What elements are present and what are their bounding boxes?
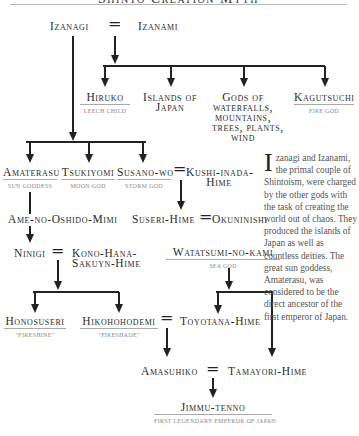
jimmu-subtitle: First legendary emperor of Japan — [154, 418, 272, 424]
title-rule — [10, 4, 347, 5]
izanagi-descent-line — [72, 36, 74, 132]
tsukiyomi-subtitle: Moon god — [61, 183, 115, 189]
node-islands-of-japan: Islands of Japan — [140, 92, 200, 112]
susano-wo-subtitle: Storm god — [117, 183, 171, 189]
marriage-equals: = — [199, 212, 212, 222]
ninigi-label: Ninigi — [14, 248, 45, 258]
amasuhiko-label: Amasuhiko — [141, 366, 198, 376]
nature-gods-line5: wind — [212, 132, 274, 142]
amaterasu-descent-line — [29, 192, 31, 214]
kushi-line2: Hime — [186, 177, 252, 187]
node-tsukiyomi: Tsukiyomi Moon god — [61, 167, 115, 189]
izanami-children-bar — [103, 65, 325, 67]
arrowhead-icon — [209, 389, 217, 398]
dropcap: I — [264, 153, 273, 173]
amaterasu-subtitle: Sun goddess — [3, 183, 57, 189]
arrowhead-icon — [69, 132, 77, 141]
arrowhead-icon — [111, 55, 119, 64]
kagutsuchi-name: Kagutsuchi — [294, 92, 354, 105]
marriage-equals: = — [206, 364, 219, 374]
hiruko-subtitle: Leech child — [80, 108, 130, 114]
susano-descent-line — [180, 180, 182, 202]
node-amaterasu: Amaterasu Sun goddess — [3, 167, 57, 189]
node-nature-gods: Gods of waterfalls, mountains, trees, pl… — [212, 92, 274, 142]
hikohohodemi-subtitle: "Fireshade" — [80, 332, 158, 338]
node-hiruko: Hiruko Leech child — [80, 92, 130, 114]
arrowhead-icon — [163, 348, 171, 357]
arrowhead-icon — [268, 348, 276, 357]
arrowhead-icon — [101, 78, 109, 87]
node-hikohohodemi: Hikohohodemi "Fireshade" — [80, 316, 158, 338]
node-honosuseri: Honosuseri "Fireshine" — [4, 316, 66, 338]
toyotana-hime-label: Toyotana-Hime — [180, 316, 261, 326]
honosuseri-subtitle: "Fireshine" — [4, 332, 66, 338]
hikohohodemi-descent-line — [166, 328, 168, 349]
arrowhead-icon — [26, 154, 34, 163]
marriage-equals: = — [160, 313, 173, 323]
watatsumi-subtitle: Sea god — [166, 263, 280, 269]
ninigi-descent-line — [57, 260, 59, 282]
arrowhead-icon — [177, 201, 185, 210]
arrowhead-icon — [31, 304, 39, 313]
marriage-equals: = — [173, 164, 186, 174]
watatsumi-descent-line — [228, 268, 230, 282]
arrowhead-icon — [115, 304, 123, 313]
arrowhead-icon — [240, 78, 248, 87]
watatsumi-name: Watatsumi-no-kami — [166, 247, 280, 260]
branch-line — [217, 292, 219, 306]
node-kushi-inada-hime: Kushi-inada- Hime — [186, 167, 252, 187]
description-paragraph: Izanagi and Izanami, the primal couple o… — [264, 152, 359, 323]
arrowhead-icon — [167, 78, 175, 87]
arrowhead-icon — [26, 234, 34, 243]
hikohohodemi-name: Hikohohodemi — [80, 316, 158, 329]
ninigi-children-bar — [33, 291, 119, 293]
suseri-hime-label: Suseri-Hime — [132, 214, 195, 224]
arrowhead-icon — [214, 305, 222, 314]
node-watatsumi-no-kami: Watatsumi-no-kami Sea god — [166, 247, 280, 269]
arrowhead-icon — [54, 281, 62, 290]
izanami-label: Izanami — [138, 21, 178, 31]
marriage-equals: = — [108, 19, 121, 29]
amaterasu-name: Amaterasu — [3, 167, 57, 180]
arrowhead-icon — [321, 78, 329, 87]
tsukiyomi-name: Tsukiyomi — [61, 167, 115, 180]
jimmu-name: Jimmu-tenno — [154, 402, 272, 415]
izanagi-children-bar — [26, 141, 146, 143]
islands-line2: Japan — [140, 102, 200, 112]
honosuseri-name: Honosuseri — [4, 316, 66, 329]
kagutsuchi-subtitle: Fire god — [294, 108, 354, 114]
marriage-equals: = — [51, 246, 64, 256]
hiruko-name: Hiruko — [80, 92, 130, 105]
arrowhead-icon — [139, 154, 147, 163]
arrowhead-icon — [85, 154, 93, 163]
node-susano-wo: Susano-wo Storm god — [117, 167, 171, 189]
tamayori-hime-label: Tamayori-Hime — [228, 366, 307, 376]
okuninishi-label: Okuninishi — [212, 214, 268, 224]
node-jimmu-tenno: Jimmu-tenno First legendary emperor of J… — [154, 402, 272, 424]
izanagi-label: Izanagi — [50, 21, 89, 31]
susano-wo-name: Susano-wo — [117, 167, 171, 180]
ame-no-oshido-mimi-label: Ame-no-Oshido-Mimi — [8, 214, 118, 224]
izanami-descent-line — [114, 36, 116, 56]
node-kagutsuchi: Kagutsuchi Fire god — [294, 92, 354, 114]
arrowhead-icon — [225, 281, 233, 290]
kono-line2: Sakuyn-Hime — [72, 258, 141, 268]
node-kono-hana-sakuyn-hime: Kono-Hana- Sakuyn-Hime — [72, 248, 141, 268]
description-body: zanagi and Izanami, the primal couple of… — [264, 153, 357, 322]
